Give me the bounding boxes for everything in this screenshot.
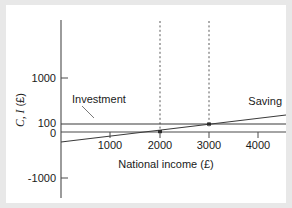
x-tick-label-2000: 2000 [148,139,172,151]
marker-equilibrium [207,123,211,126]
x-tick-label-4000: 4000 [246,139,270,151]
y-tick-label-0: 0 [50,127,56,139]
y-axis-title-unit: (£) [14,93,26,110]
y-tick-label-neg1000: -1000 [28,172,56,184]
y-axis-title-group: C, I (£) [14,93,27,127]
marker-zero-crossing [158,130,162,133]
saving-series-label: Saving [248,95,282,107]
saving-line [61,115,286,142]
x-tick-label-1000: 1000 [98,139,122,151]
saving-investment-chart: 1000 100 0 -1000 1000 2000 3000 4000 Inv… [6,5,286,203]
investment-series-label: Investment [72,93,126,105]
investment-leader-line [82,106,94,118]
y-axis-title-symbols: C, I [14,108,27,126]
x-tick-label-3000: 3000 [197,139,221,151]
y-axis-title: C, I (£) [14,93,27,127]
x-axis-title: National income (£) [118,158,213,170]
y-tick-label-1000: 1000 [32,72,56,84]
figure-container: 1000 100 0 -1000 1000 2000 3000 4000 Inv… [0,0,292,208]
plot-canvas: 1000 100 0 -1000 1000 2000 3000 4000 Inv… [6,5,286,203]
